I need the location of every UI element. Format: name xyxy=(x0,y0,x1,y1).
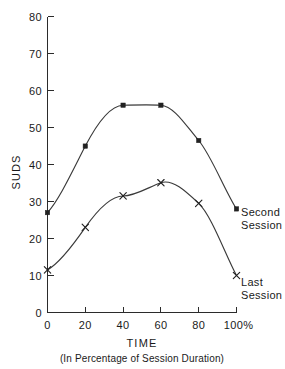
last-session-markers xyxy=(44,180,239,279)
last-session-point-80 xyxy=(196,200,202,206)
y-tick-label-0: 0 xyxy=(35,307,42,319)
second-session-label-line1: Second xyxy=(241,206,280,218)
second-session-point-100 xyxy=(234,207,238,211)
second-session-point-40 xyxy=(121,103,125,107)
y-tick-label-60: 60 xyxy=(29,85,42,97)
y-tick-label-40: 40 xyxy=(29,159,42,171)
second-session-point-80 xyxy=(197,138,201,142)
x-tick-label-80: 80 xyxy=(192,319,205,331)
series-annotation-second-session: Second Session xyxy=(241,206,282,231)
y-tick-label-30: 30 xyxy=(29,196,42,208)
y-axis-tick-labels: 80 70 60 50 40 30 20 10 0 xyxy=(29,11,42,319)
second-session-point-60 xyxy=(159,103,163,107)
x-tick-label-20: 20 xyxy=(79,319,92,331)
second-session-point-20 xyxy=(83,144,87,148)
last-session-label-line2: Session xyxy=(241,289,282,301)
x-axis-subtitle: (In Percentage of Session Duration) xyxy=(60,353,224,364)
last-session-label-line1: Last xyxy=(241,276,263,288)
second-session-point-0 xyxy=(45,210,49,214)
x-tick-label-60: 60 xyxy=(154,319,167,331)
x-axis-tick-labels: 0 20 40 60 80 100% xyxy=(44,319,253,331)
last-session-curve xyxy=(48,182,237,275)
y-tick-label-70: 70 xyxy=(29,48,42,60)
last-session-point-20 xyxy=(82,224,88,230)
x-axis-ticks xyxy=(48,307,237,313)
x-tick-label-0: 0 xyxy=(44,319,51,331)
y-tick-label-10: 10 xyxy=(29,270,42,282)
series-annotation-last-session: Last Session xyxy=(241,276,282,301)
second-session-curve xyxy=(48,105,237,213)
y-tick-label-20: 20 xyxy=(29,233,42,245)
x-axis-title: TIME xyxy=(126,337,157,349)
y-axis-title: SUDS xyxy=(10,155,22,190)
series-second-session xyxy=(45,103,238,215)
y-tick-label-50: 50 xyxy=(29,122,42,134)
chart-figure: 80 70 60 50 40 30 20 10 0 0 20 40 60 80 … xyxy=(0,0,285,369)
last-session-point-100 xyxy=(233,272,239,278)
suds-time-line-chart: 80 70 60 50 40 30 20 10 0 0 20 40 60 80 … xyxy=(0,0,285,369)
series-last-session xyxy=(44,180,239,279)
x-tick-label-40: 40 xyxy=(117,319,130,331)
y-axis-ticks xyxy=(48,17,54,276)
second-session-label-line2: Session xyxy=(241,219,282,231)
x-tick-label-100: 100% xyxy=(224,319,254,331)
y-tick-label-80: 80 xyxy=(29,11,42,23)
